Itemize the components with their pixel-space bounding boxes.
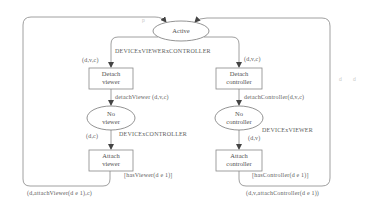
no-controller-colorset-label: DEVICExVIEWER bbox=[262, 127, 313, 134]
attach-controller-guard-label: [hasController(d e 1)] bbox=[252, 172, 309, 179]
detach-controller-line-1: Detach bbox=[216, 70, 262, 78]
transition-attach-controller-label: Attach controller bbox=[216, 152, 262, 168]
attach-viewer-guard-label: [hasViewer(d e 1)] bbox=[124, 172, 173, 179]
active-label-text: Active bbox=[172, 27, 189, 34]
attach-viewer-line-2: viewer bbox=[89, 160, 133, 168]
right-mark-2: d bbox=[353, 76, 356, 82]
transition-attach-viewer-label: Attach viewer bbox=[89, 152, 133, 168]
transition-detach-controller-label: Detach controller bbox=[216, 70, 262, 86]
transition-detach-viewer-label: Detach viewer bbox=[89, 70, 133, 86]
attach-viewer-line-1: Attach bbox=[89, 152, 133, 160]
attach-controller-line-1: Attach bbox=[216, 152, 262, 160]
no-viewer-line-1: No bbox=[87, 110, 135, 118]
no-controller-line-2: controller bbox=[215, 118, 263, 126]
no-viewer-to-attach-viewer-label: (d,c) bbox=[86, 133, 98, 140]
place-active-label: Active bbox=[158, 27, 204, 35]
active-to-detach-controller-label: (d,v,c) bbox=[244, 56, 261, 63]
detach-viewer-line-2: viewer bbox=[89, 78, 133, 86]
detach-controller-line-2: controller bbox=[216, 78, 262, 86]
no-controller-to-attach-controller-label: (d,v) bbox=[248, 135, 261, 142]
detach-viewer-out-label: detachViewer (d,v,c) bbox=[115, 94, 169, 101]
attach-viewer-return-label: (d,attachViewer(d e 1),c) bbox=[27, 190, 92, 197]
detach-controller-out-label: detachController(d,v,c) bbox=[244, 94, 304, 101]
no-viewer-line-2: viewer bbox=[87, 118, 135, 126]
attach-controller-line-2: controller bbox=[216, 160, 262, 168]
attach-controller-return-label: (d,v,attachController(d e 1)) bbox=[246, 190, 319, 197]
detach-viewer-line-1: Detach bbox=[89, 70, 133, 78]
place-no-viewer-label: No viewer bbox=[87, 110, 135, 126]
place-no-controller-label: No controller bbox=[215, 110, 263, 126]
no-controller-line-1: No bbox=[215, 110, 263, 118]
active-to-detach-viewer-label: (d,v,c) bbox=[82, 57, 99, 64]
active-colorset-label: DEVICExVIEWERxCONTROLLER bbox=[115, 48, 211, 55]
no-viewer-colorset-label: DEVICExCONTROLLER bbox=[119, 131, 187, 138]
right-mark-1: d bbox=[339, 76, 342, 82]
top-mark: p bbox=[142, 17, 145, 23]
